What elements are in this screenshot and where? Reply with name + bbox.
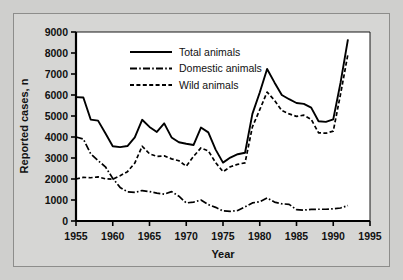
- y-tick-label: 5000: [45, 110, 69, 122]
- x-tick-label: 1980: [248, 230, 272, 242]
- y-tick-label: 6000: [45, 89, 69, 101]
- y-tick-label: 9000: [45, 26, 69, 38]
- y-axis-title: Reported cases, n: [18, 78, 30, 173]
- line-chart: 0100020003000400050006000700080009000 19…: [14, 14, 389, 266]
- x-tick-label: 1965: [138, 230, 162, 242]
- x-tick-label: 1990: [322, 230, 346, 242]
- x-tick-label: 1995: [358, 230, 382, 242]
- y-tick-label: 3000: [45, 152, 69, 164]
- figure-root: 0100020003000400050006000700080009000 19…: [0, 0, 403, 280]
- legend-label-total-animals: Total animals: [179, 46, 240, 58]
- x-axis-tick-labels: 195519601965197019751980198519901995: [64, 230, 382, 242]
- y-tick-label: 8000: [45, 47, 69, 59]
- legend-label-wild-animals: Wild animals: [179, 79, 239, 91]
- x-axis-title: Year: [211, 248, 235, 260]
- y-axis-tick-labels: 0100020003000400050006000700080009000: [45, 26, 69, 227]
- y-tick-label: 4000: [45, 131, 69, 143]
- legend-label-domestic-animals: Domestic animals: [179, 62, 262, 74]
- x-tick-label: 1955: [64, 230, 88, 242]
- x-tick-label: 1960: [101, 230, 125, 242]
- figure-frame: 0100020003000400050006000700080009000 19…: [13, 13, 390, 267]
- x-tick-label: 1970: [175, 230, 199, 242]
- x-tick-label: 1985: [285, 230, 309, 242]
- x-tick-label: 1975: [211, 230, 235, 242]
- y-tick-label: 7000: [45, 68, 69, 80]
- y-tick-label: 0: [62, 215, 68, 227]
- y-tick-label: 2000: [45, 173, 69, 185]
- y-tick-label: 1000: [45, 194, 69, 206]
- plot-area-background: [76, 32, 370, 221]
